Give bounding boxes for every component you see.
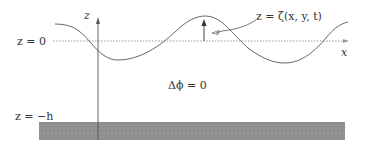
- x-axis-arrowhead-icon: [343, 39, 349, 43]
- water-wave-diagram: z x z = 0 z = −h z = ζ(x, y, t) Δϕ = 0: [0, 0, 368, 147]
- bottom-level-label: z = −h: [15, 110, 53, 123]
- z-axis-arrowhead-icon: [96, 17, 100, 24]
- surface-level-label: z = 0: [17, 35, 46, 48]
- x-axis-label: x: [341, 46, 348, 59]
- seabed-block: [39, 122, 345, 140]
- laplace-equation-label: Δϕ = 0: [168, 79, 207, 92]
- free-surface-label: z = ζ(x, y, t): [256, 10, 322, 23]
- free-surface-leader: [216, 20, 256, 33]
- elevation-arrowhead-icon: [202, 19, 207, 26]
- z-axis-label: z: [83, 9, 90, 22]
